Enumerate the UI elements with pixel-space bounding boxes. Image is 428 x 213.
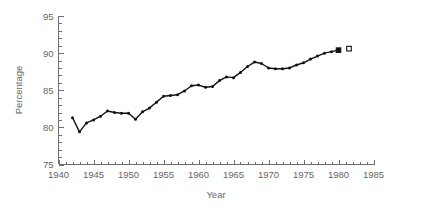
data-point	[197, 84, 200, 87]
x-tick-label: 1960	[188, 169, 209, 180]
data-point	[113, 111, 116, 114]
y-axis-title: Percentage	[13, 66, 24, 115]
data-point	[92, 118, 95, 121]
data-point	[309, 58, 312, 61]
data-point	[127, 112, 130, 115]
x-axis-ticks	[60, 160, 375, 165]
y-axis-ticks	[59, 17, 64, 166]
data-point	[260, 62, 263, 65]
data-point	[183, 89, 186, 92]
x-tick-label: 1955	[153, 169, 174, 180]
data-point	[190, 84, 193, 87]
x-tick-label: 1970	[258, 169, 279, 180]
data-point	[288, 66, 291, 69]
data-point	[218, 79, 221, 82]
data-point	[134, 118, 137, 121]
x-tick-label: 1965	[223, 169, 244, 180]
x-tick-label: 1975	[293, 169, 314, 180]
data-point	[169, 94, 172, 97]
y-axis-tick-labels: 7580859095	[43, 11, 54, 171]
data-point	[141, 110, 144, 113]
x-axis-tick-labels: 1940194519501955196019651970197519801985	[48, 169, 384, 180]
data-point	[120, 112, 123, 115]
data-point	[85, 121, 88, 124]
data-point	[106, 110, 109, 113]
data-point	[232, 76, 235, 79]
y-tick-label: 80	[43, 122, 54, 133]
x-tick-label: 1950	[118, 169, 139, 180]
data-point	[323, 52, 326, 55]
end-markers-group	[336, 46, 351, 52]
data-point	[316, 55, 319, 58]
series-end-filled-marker	[336, 48, 341, 53]
data-series-line	[73, 50, 339, 132]
data-point	[246, 65, 249, 68]
data-point	[330, 50, 333, 53]
y-tick-label: 85	[43, 85, 54, 96]
data-point	[176, 93, 179, 96]
x-tick-label: 1945	[83, 169, 104, 180]
data-point	[162, 95, 165, 98]
data-point	[274, 67, 277, 70]
data-point	[211, 85, 214, 88]
data-point	[239, 71, 242, 74]
y-tick-label: 95	[43, 11, 54, 22]
data-point-markers	[71, 49, 340, 134]
data-point	[71, 116, 74, 119]
projection-open-marker	[347, 46, 352, 51]
data-point	[204, 86, 207, 89]
x-tick-label: 1985	[363, 169, 384, 180]
data-point	[295, 64, 298, 67]
x-tick-label: 1980	[328, 169, 349, 180]
data-point	[148, 107, 151, 110]
y-tick-label: 90	[43, 48, 54, 59]
x-axis-title: Year	[206, 189, 225, 200]
data-point	[253, 61, 256, 64]
chart-container: 7580859095 19401945195019551960196519701…	[0, 0, 428, 213]
data-point	[99, 115, 102, 118]
data-point	[267, 66, 270, 69]
data-point	[78, 130, 81, 133]
x-tick-label: 1940	[48, 169, 69, 180]
data-point	[155, 101, 158, 104]
line-chart: 7580859095 19401945195019551960196519701…	[0, 0, 428, 213]
data-point	[302, 61, 305, 64]
data-point	[225, 75, 228, 78]
data-point	[281, 67, 284, 70]
